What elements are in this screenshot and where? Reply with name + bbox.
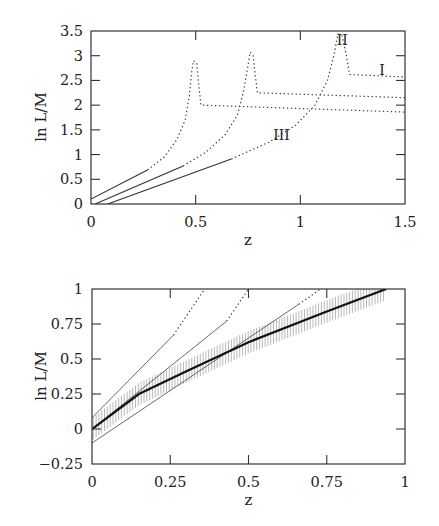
series-C-dotted	[231, 34, 405, 159]
uncertainty-band	[93, 279, 383, 439]
series-A-dotted	[148, 61, 406, 170]
annotation-II: II	[337, 32, 348, 48]
series-B-dotted	[183, 52, 405, 166]
annotation-III: III	[273, 127, 290, 143]
y-tick-label: 0	[74, 196, 83, 212]
y-tick-label: 1	[74, 147, 83, 163]
series-mean-relation-line	[92, 289, 386, 429]
series-thin-1-dotted	[173, 289, 204, 335]
y-tick-label: 3.5	[60, 23, 83, 39]
figure: 00.511.500.511.522.533.5zln L/MIIIIII 00…	[0, 0, 439, 526]
series-thin-3	[92, 289, 321, 443]
series-mean-relation	[92, 289, 386, 429]
x-tick-label: 0	[86, 214, 95, 230]
y-axis-label: ln L/M	[32, 351, 50, 401]
y-tick-label: 2	[74, 97, 83, 113]
series-thin-1	[92, 289, 205, 418]
y-axis-label: ln L/M	[32, 92, 50, 142]
x-axis-label: z	[245, 491, 253, 509]
x-tick-label: 0	[87, 474, 96, 490]
x-tick-label: 0.25	[154, 474, 186, 490]
y-tick-label: 1	[74, 281, 83, 297]
plot-area	[92, 279, 386, 443]
annotation-I: I	[379, 62, 385, 78]
bottom-panel: 00.250.50.751−0.2500.250.50.751zln L/M	[32, 279, 410, 509]
series-B-solid	[95, 166, 183, 204]
plot-frame	[92, 289, 405, 464]
y-tick-label: 0.5	[60, 351, 83, 367]
y-tick-label: 2.5	[60, 72, 83, 88]
series-C	[108, 34, 405, 204]
y-tick-label: 3	[74, 48, 83, 64]
y-tick-label: 0.75	[51, 316, 83, 332]
plot-area	[91, 34, 405, 204]
y-tick-label: 0	[74, 421, 83, 437]
x-tick-label: 1	[400, 474, 409, 490]
series-thin-3-solid	[92, 304, 299, 443]
x-tick-label: 0.75	[311, 474, 343, 490]
x-tick-label: 1.5	[393, 214, 416, 230]
x-tick-label: 0.5	[184, 214, 207, 230]
x-axis-label: z	[244, 231, 252, 249]
top-panel: 00.511.500.511.522.533.5zln L/MIIIIII	[32, 23, 417, 249]
series-A	[91, 61, 405, 199]
x-tick-label: 0.5	[237, 474, 260, 490]
x-tick-label: 1	[296, 214, 305, 230]
series-thin-2-dotted	[227, 289, 249, 321]
y-tick-label: 0.5	[60, 171, 83, 187]
y-tick-label: 1.5	[60, 122, 83, 138]
plot-frame	[91, 31, 405, 204]
series-thin-3-dotted	[299, 289, 321, 304]
y-tick-label: −0.25	[39, 456, 83, 472]
y-tick-label: 0.25	[51, 386, 83, 402]
